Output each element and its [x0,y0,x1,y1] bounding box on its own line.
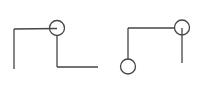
left-figure [14,21,98,70]
right-figure-bottom-left-node [121,59,136,74]
left-figure-top-horizontal-line [14,29,57,30]
line-circle-diagram [0,0,203,87]
right-figure [121,20,190,74]
diagram-canvas [0,0,203,87]
